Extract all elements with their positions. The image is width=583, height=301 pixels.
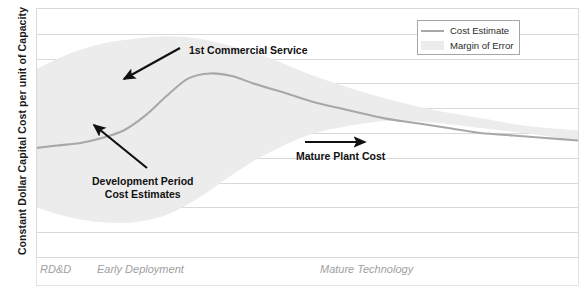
- x-axis-category-band: RD&D Early Deployment Mature Technology: [36, 258, 579, 286]
- legend-item-margin-of-error: Margin of Error: [421, 38, 513, 53]
- legend-label-margin-of-error: Margin of Error: [450, 40, 513, 51]
- annotation-line-1: Development Period: [92, 175, 194, 188]
- legend-fill-swatch-icon: [421, 41, 444, 50]
- legend-label-cost-estimate: Cost Estimate: [450, 25, 509, 36]
- annotation-development-period-cost-estimates: Development Period Cost Estimates: [92, 175, 194, 201]
- chart-legend: Cost Estimate Margin of Error: [417, 20, 520, 55]
- annotation-first-commercial-service: 1st Commercial Service: [189, 44, 307, 57]
- legend-item-cost-estimate: Cost Estimate: [421, 23, 509, 38]
- x-axis-label-early-deployment: Early Deployment: [97, 263, 184, 275]
- legend-line-swatch-icon: [421, 30, 444, 32]
- x-axis-label-mature-technology: Mature Technology: [320, 263, 413, 275]
- cost-estimate-chart: Constant Dollar Capital Cost per unit of…: [0, 0, 583, 301]
- annotation-mature-plant-cost: Mature Plant Cost: [296, 150, 385, 163]
- x-axis-label-rdd: RD&D: [40, 263, 71, 275]
- annotation-line-2: Cost Estimates: [92, 188, 194, 201]
- y-axis-title: Constant Dollar Capital Cost per unit of…: [16, 0, 28, 265]
